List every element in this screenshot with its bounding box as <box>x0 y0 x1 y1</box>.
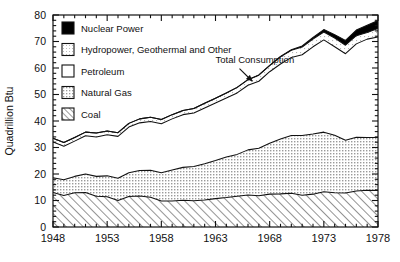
legend-swatch <box>62 65 74 77</box>
legend-item-nuclear-power: Nuclear Power <box>62 22 143 34</box>
x-tick-label: 1978 <box>366 232 390 244</box>
legend-label: Hydropower, Geothermal and Other <box>81 44 232 55</box>
legend-swatch <box>62 44 74 56</box>
y-tick-label: 40 <box>34 115 46 127</box>
legend-label: Coal <box>81 109 101 120</box>
y-tick-label: 80 <box>34 9 46 21</box>
legend-item-coal: Coal <box>62 108 101 120</box>
legend-label: Natural Gas <box>81 87 132 98</box>
y-tick-label: 10 <box>34 194 46 206</box>
x-tick-label: 1948 <box>41 232 65 244</box>
y-tick-label: 50 <box>34 88 46 100</box>
legend-item-petroleum: Petroleum <box>62 65 124 77</box>
x-tick-label: 1958 <box>149 232 173 244</box>
x-tick-label: 1973 <box>312 232 336 244</box>
x-tick-label: 1968 <box>257 232 281 244</box>
legend-label: Nuclear Power <box>81 23 143 34</box>
y-tick-label: 20 <box>34 168 46 180</box>
legend-item-hydropower-geothermal-and-other: Hydropower, Geothermal and Other <box>62 44 232 56</box>
y-tick-label: 60 <box>34 62 46 74</box>
annotation-label: Total Consumption <box>216 54 295 65</box>
legend-swatch <box>62 22 74 34</box>
x-tick-label: 1963 <box>203 232 227 244</box>
legend-label: Petroleum <box>81 66 124 77</box>
y-tick-label: 70 <box>34 35 46 47</box>
chart-container: 01020304050607080 1948195319581963196819… <box>0 0 400 262</box>
y-tick-label: 30 <box>34 141 46 153</box>
x-tick-label: 1953 <box>95 232 119 244</box>
energy-consumption-stacked-area-chart: 01020304050607080 1948195319581963196819… <box>0 0 400 262</box>
legend-swatch <box>62 87 74 99</box>
y-tick-label: 0 <box>40 221 46 233</box>
legend-item-natural-gas: Natural Gas <box>62 87 132 99</box>
legend-swatch <box>62 108 74 120</box>
y-axis-title: Quadrillion Btu <box>3 86 15 155</box>
